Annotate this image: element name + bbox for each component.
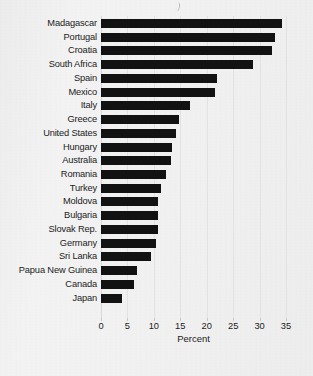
category-label: Australia <box>62 154 97 167</box>
category-label: Spain <box>74 72 97 85</box>
bar <box>101 197 158 206</box>
x-tick-label: 25 <box>228 320 238 332</box>
bar-row: Hungary <box>101 141 286 155</box>
bar <box>101 101 190 110</box>
x-tick-label: 30 <box>254 320 264 332</box>
bar <box>101 294 122 303</box>
category-label: Madagascar <box>47 17 97 30</box>
bar-row: Australia <box>101 154 286 168</box>
bar <box>101 184 161 193</box>
bar-row: Turkey <box>101 182 286 196</box>
bar-row: United States <box>101 127 286 141</box>
bar <box>101 143 172 152</box>
bar-row: Bulgaria <box>101 209 286 223</box>
bar-chart: MadagascarPortugalCroatiaSouth AfricaSpa… <box>0 0 313 376</box>
bar-row: Slovak Rep. <box>101 223 286 237</box>
bar <box>101 239 156 248</box>
x-tick-label: 35 <box>281 320 291 332</box>
bar-row: Canada <box>101 278 286 292</box>
category-label: Sri Lanka <box>59 250 97 263</box>
bar-row: Portugal <box>101 31 286 45</box>
category-label: Hungary <box>63 141 97 154</box>
gridline-35 <box>286 16 287 318</box>
x-tick-label: 15 <box>175 320 185 332</box>
category-label: Portugal <box>64 31 97 44</box>
bar-row: Madagascar <box>101 17 286 31</box>
bar-row: Italy <box>101 99 286 113</box>
category-label: Turkey <box>70 182 97 195</box>
bar-row: Japan <box>101 292 286 306</box>
bar-row: Moldova <box>101 195 286 209</box>
bar <box>101 156 171 165</box>
bar-row: Papua New Guinea <box>101 264 286 278</box>
bar <box>101 19 282 28</box>
category-label: Greece <box>67 113 97 126</box>
category-label: Canada <box>65 278 97 291</box>
bar <box>101 211 158 220</box>
bar-row: Germany <box>101 237 286 251</box>
bar <box>101 225 158 234</box>
category-label: Slovak Rep. <box>49 223 97 236</box>
category-label: Germany <box>60 237 97 250</box>
bar <box>101 252 151 261</box>
bar-row: Romania <box>101 168 286 182</box>
bar <box>101 60 253 69</box>
bar-row: Croatia <box>101 44 286 58</box>
plot-area: MadagascarPortugalCroatiaSouth AfricaSpa… <box>101 16 286 318</box>
bar-row: Sri Lanka <box>101 250 286 264</box>
bar <box>101 280 134 289</box>
x-tick-label: 5 <box>125 320 130 332</box>
bar <box>101 170 166 179</box>
category-label: Romania <box>61 168 97 181</box>
bar <box>101 33 275 42</box>
x-tick-label: 20 <box>202 320 212 332</box>
bar-row: Spain <box>101 72 286 86</box>
bar <box>101 88 215 97</box>
bar-row: South Africa <box>101 58 286 72</box>
bar-row: Greece <box>101 113 286 127</box>
category-label: Mexico <box>68 86 97 99</box>
category-label: Italy <box>81 99 97 112</box>
bar-row: Mexico <box>101 86 286 100</box>
category-label: Papua New Guinea <box>19 264 97 277</box>
x-tick-label: 10 <box>149 320 159 332</box>
category-label: United States <box>43 127 97 140</box>
category-label: Bulgaria <box>64 209 97 222</box>
category-label: Moldova <box>63 195 97 208</box>
category-label: Japan <box>72 292 97 305</box>
bar <box>101 74 217 83</box>
category-label: South Africa <box>49 58 97 71</box>
bar-rows: MadagascarPortugalCroatiaSouth AfricaSpa… <box>101 16 286 318</box>
bar <box>101 115 179 124</box>
x-tick-label: 0 <box>98 320 103 332</box>
x-axis-title: Percent <box>101 333 286 344</box>
category-label: Croatia <box>68 44 97 57</box>
bar <box>101 266 137 275</box>
bar <box>101 46 272 55</box>
bar <box>101 129 176 138</box>
